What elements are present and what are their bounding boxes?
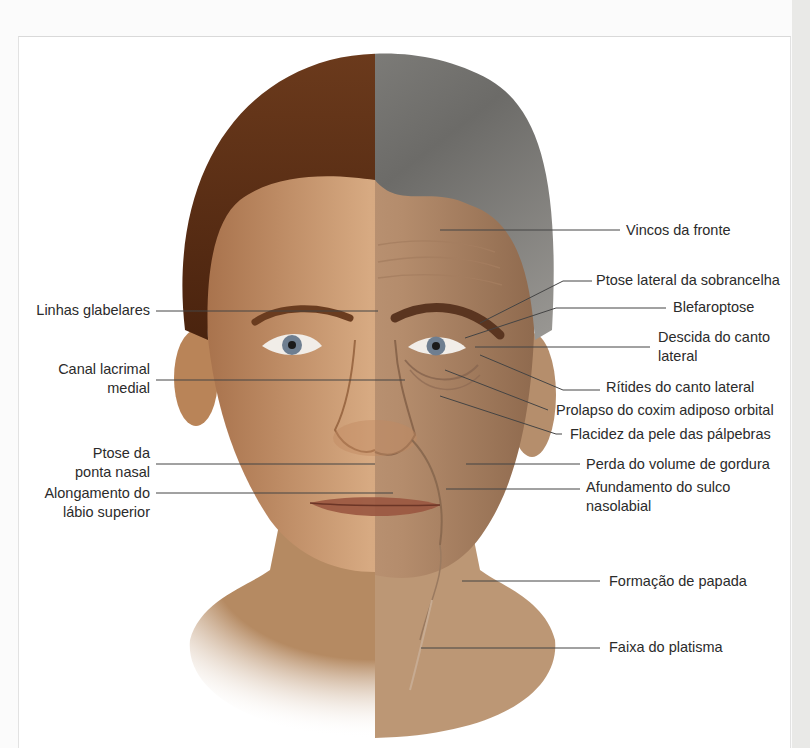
label-line-text: Vincos da fronte — [626, 221, 731, 240]
label-line-text: Prolapso do coxim adiposo orbital — [556, 401, 774, 420]
label-ptose-lateral-sobrancelha: Ptose lateral da sobrancelha — [596, 271, 780, 290]
label-canal-lacrimal-medial: Canal lacrimalmedial — [58, 360, 150, 398]
label-line-text: Ptose da — [75, 444, 150, 463]
label-vincos-da-fronte: Vincos da fronte — [626, 221, 731, 240]
label-perda-volume-gordura: Perda do volume de gordura — [586, 455, 770, 474]
label-line-text: Rítides do canto lateral — [606, 378, 754, 397]
label-linhas-glabelares: Linhas glabelares — [36, 301, 150, 320]
label-descida-canto-lateral: Descida do cantolateral — [658, 328, 770, 366]
label-ptose-ponta-nasal: Ptose daponta nasal — [75, 444, 150, 482]
label-line-text: Perda do volume de gordura — [586, 455, 770, 474]
label-line-text: ponta nasal — [75, 463, 150, 482]
label-line-text: Linhas glabelares — [36, 301, 150, 320]
label-afundamento-sulco-nasolabial: Afundamento do sulconasolabial — [586, 478, 730, 516]
label-line-text: lateral — [658, 347, 770, 366]
label-line-text: Alongamento do — [44, 484, 150, 503]
label-flacidez-pele-palpebras: Flacidez da pele das pálpebras — [570, 425, 771, 444]
label-alongamento-labio-superior: Alongamento dolábio superior — [44, 484, 150, 522]
label-faixa-platisma: Faixa do platisma — [609, 638, 723, 657]
label-line-text: medial — [58, 379, 150, 398]
label-line-text: Descida do canto — [658, 328, 770, 347]
label-line-text: Canal lacrimal — [58, 360, 150, 379]
label-line-text: Ptose lateral da sobrancelha — [596, 271, 780, 290]
label-line-text: Formação de papada — [609, 572, 747, 591]
label-formacao-papada: Formação de papada — [609, 572, 747, 591]
label-ritides-canto-lateral: Rítides do canto lateral — [606, 378, 754, 397]
label-line-text: Afundamento do sulco — [586, 478, 730, 497]
label-line-text: Faixa do platisma — [609, 638, 723, 657]
label-line-text: Flacidez da pele das pálpebras — [570, 425, 771, 444]
label-blefaroptose: Blefaroptose — [673, 298, 754, 317]
label-line-text: Blefaroptose — [673, 298, 754, 317]
label-line-text: nasolabial — [586, 497, 730, 516]
label-line-text: lábio superior — [44, 503, 150, 522]
label-prolapso-coxim-adiposo: Prolapso do coxim adiposo orbital — [556, 401, 774, 420]
